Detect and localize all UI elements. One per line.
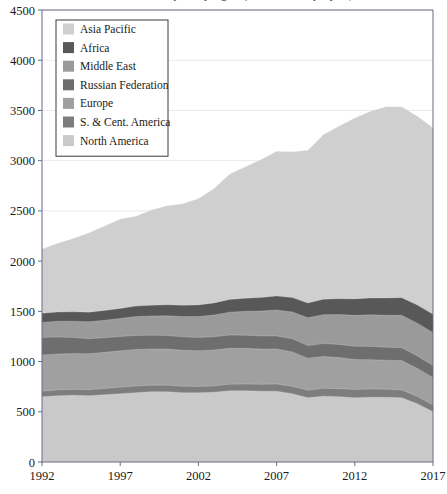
x-tick-label: 2002 — [186, 469, 211, 483]
legend-swatch-europe[interactable] — [63, 98, 74, 109]
y-tick-label: 1000 — [10, 355, 35, 369]
y-tick-label: 4000 — [10, 54, 35, 68]
y-tick-label: 2500 — [10, 204, 35, 218]
x-tick-label: 2007 — [264, 469, 289, 483]
y-tick-label: 2000 — [10, 255, 35, 269]
chart-title: Oil consumption by region (million tonne… — [122, 0, 352, 2]
legend-swatch-s-cent-america[interactable] — [63, 117, 74, 128]
y-tick-label: 0 — [29, 456, 35, 470]
stacked-area-chart: 050010001500200025003000350040004500 199… — [0, 0, 447, 494]
y-tick-label: 3500 — [10, 104, 35, 118]
legend-swatch-russian-federation[interactable] — [63, 79, 74, 90]
x-tick-label: 1997 — [108, 469, 133, 483]
legend-label[interactable]: S. & Cent. America — [80, 116, 170, 128]
x-tick-label: 2012 — [342, 469, 367, 483]
y-tick-labels: 050010001500200025003000350040004500 — [10, 4, 35, 470]
x-tick-labels: 199219972002200720122017 — [30, 469, 446, 483]
legend-swatch-africa[interactable] — [63, 42, 74, 53]
y-tick-label: 500 — [16, 405, 35, 419]
y-tick-label: 1500 — [10, 305, 35, 319]
legend-swatch-north-america[interactable] — [63, 135, 74, 146]
legend-label[interactable]: Africa — [80, 42, 109, 54]
x-tick-label: 1992 — [30, 469, 55, 483]
legend-label[interactable]: Russian Federation — [80, 79, 169, 91]
chart-title-text: Oil consumption by region (million tonne… — [122, 0, 352, 2]
legend-label[interactable]: Asia Pacific — [80, 23, 136, 35]
area-north-america — [42, 391, 433, 462]
y-tick-label: 3000 — [10, 154, 35, 168]
chart-legend[interactable]: Asia PacificAfricaMiddle EastRussian Fed… — [56, 20, 170, 156]
x-tick-label: 2017 — [421, 469, 446, 483]
chart-figure: 050010001500200025003000350040004500 199… — [0, 0, 447, 494]
legend-swatch-asia-pacific[interactable] — [63, 24, 74, 35]
legend-label[interactable]: Europe — [80, 97, 113, 110]
legend-swatch-middle-east[interactable] — [63, 61, 74, 72]
area-series-group — [42, 107, 433, 462]
y-tick-label: 4500 — [10, 4, 35, 18]
legend-label[interactable]: North America — [80, 135, 149, 147]
legend-label[interactable]: Middle East — [80, 60, 137, 72]
